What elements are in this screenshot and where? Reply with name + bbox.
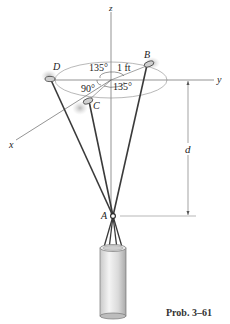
dimension-arrow-top (187, 81, 190, 85)
y-axis-label: y (217, 75, 221, 85)
radius-label: 1 ft (117, 63, 131, 73)
angle-arc-dc (97, 80, 101, 85)
diagram-figure: z y x D B C A 135° 1 ft 90° 135° d Prob.… (0, 0, 230, 324)
z-axis-label: z (109, 4, 113, 13)
cylinder-bag (100, 245, 126, 320)
anchor-d-icon (45, 76, 55, 81)
point-d-label: D (53, 62, 60, 72)
point-a-label: A (101, 211, 107, 221)
angle-db-label: 135° (89, 63, 108, 73)
cable-da (51, 80, 113, 216)
dimension-arrow-bottom (187, 211, 190, 215)
diagram-canvas (0, 0, 230, 324)
point-a-ring (111, 214, 116, 219)
cable-ca (89, 101, 113, 216)
x-axis-label: x (9, 140, 13, 150)
angle-dc-label: 90° (81, 84, 95, 94)
point-c-label: C (93, 101, 100, 111)
anchor-c-icon (82, 97, 93, 105)
angle-cb-label: 135° (113, 82, 132, 92)
dimension-d-label: d (185, 144, 191, 155)
point-b-label: B (144, 50, 150, 60)
problem-caption: Prob. 3–61 (166, 307, 212, 318)
